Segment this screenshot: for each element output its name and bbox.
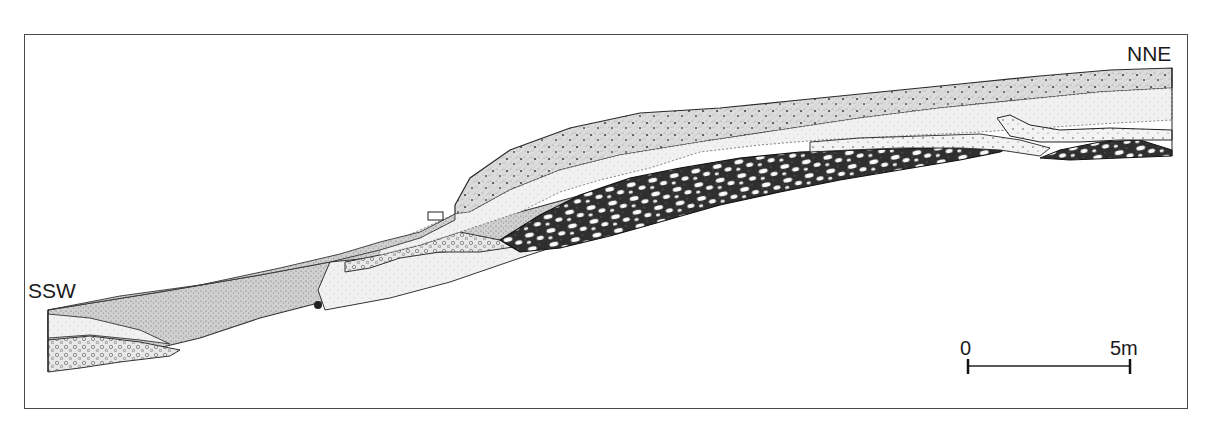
direction-label-nne: NNE — [1127, 43, 1171, 64]
section-drawing — [0, 0, 1217, 433]
dark-spot — [314, 301, 322, 309]
stratigraphic-section-figure: NNE SSW 0 5m — [0, 0, 1217, 433]
direction-label-ssw: SSW — [28, 280, 76, 301]
layer-right-gravel-lens — [1040, 140, 1172, 160]
scale-bar-end-label: 5m — [1110, 338, 1138, 358]
cropped-caption — [0, 418, 1217, 433]
scale-bar — [968, 359, 1130, 374]
scale-bar-start-label: 0 — [960, 338, 971, 358]
small-block — [428, 212, 443, 220]
